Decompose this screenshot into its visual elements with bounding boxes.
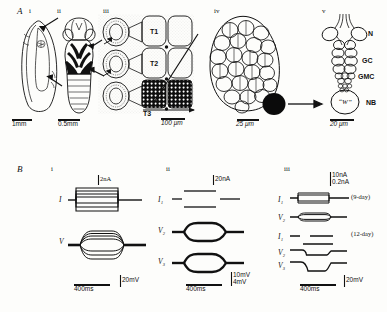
trace-label-bii-V3: V₃	[158, 258, 165, 266]
label-n: N	[368, 30, 373, 37]
trace-biii-voltage3-12day	[289, 258, 351, 278]
trace-bii-current	[170, 186, 250, 212]
trace-label-biii-V2-9day: V₂	[278, 214, 285, 222]
scalebar-a-ii-label: 0.5mm	[58, 121, 78, 128]
scale-bii-time-label: 400ms	[186, 286, 206, 293]
trace-label-biii-I1-12day: I₁	[278, 233, 283, 241]
scale-biii-voltage-label: 20mV	[346, 277, 363, 284]
scalebar-a-v-label: 20 μm	[330, 121, 348, 128]
trace-bi-voltage-family	[66, 225, 150, 265]
panel-b-ii-numeral: ii	[166, 166, 170, 173]
trace-label-biii-V2-12day: V₂	[278, 249, 285, 257]
trace-bii-voltage2	[170, 218, 250, 246]
trace-biii-current-9day	[289, 190, 351, 206]
neuroblast-w-label: “W”	[338, 98, 352, 106]
panel-b-i-numeral: i	[51, 166, 53, 173]
trace-label-bi-I: I	[59, 196, 62, 204]
ganglia-schematic-drawing: T1 T2	[98, 14, 194, 116]
annotation-12day: (12-day)	[351, 231, 373, 238]
scale-bi-voltage-label: 20mV	[122, 277, 139, 284]
annotation-9day: (9-day)	[351, 194, 370, 201]
panel-b-iii-numeral: iii	[284, 166, 290, 173]
scalebar-a-iv-label: 25 μm	[236, 121, 254, 128]
neuroblast-lineage-drawing: “W”	[318, 14, 372, 116]
label-t2: T2	[150, 60, 158, 67]
trace-label-bi-V: V	[59, 238, 64, 246]
trace-label-biii-V3-12day: V₃	[278, 262, 285, 270]
label-gmc: GMC	[358, 73, 374, 80]
scale-bii-current-label: 20nA	[215, 176, 230, 183]
trace-biii-current-12day	[289, 229, 351, 247]
trace-label-bii-V2: V₂	[158, 227, 165, 235]
panel-b-letter: B	[17, 165, 23, 174]
scale-bii-voltage-label-2: 4mV	[233, 279, 246, 286]
scalebar-a-iii-label: 100 μm	[161, 120, 183, 127]
scale-biii-time-label: 400ms	[300, 286, 320, 293]
trace-biii-voltage2-9day	[289, 209, 351, 225]
panel-a-i-numeral: i	[29, 8, 31, 15]
trace-bi-current-family	[66, 184, 146, 216]
figure-canvas: A i ii iii iv v 1mm	[0, 0, 387, 312]
label-t3: T3	[143, 110, 151, 117]
label-t1: T1	[150, 28, 158, 35]
label-gc: GC	[362, 57, 373, 64]
trace-label-biii-I1-9day: I₁	[278, 196, 283, 204]
trace-label-bii-I1: I₁	[158, 196, 163, 204]
panel-a-letter: A	[17, 7, 23, 16]
scale-biii-current-label-2: 0.2nA	[332, 179, 349, 186]
scalebar-a-i-label: 1mm	[12, 121, 26, 128]
scale-bi-time-label: 400ms	[74, 286, 94, 293]
label-nb: NB	[366, 99, 376, 106]
scale-bi-current-label: 2nA	[100, 176, 111, 183]
